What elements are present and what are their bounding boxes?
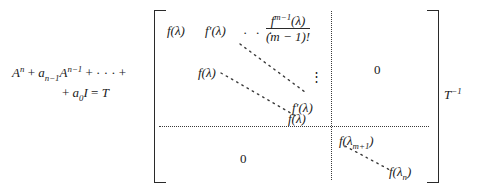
equation-figure: An + an−1An−1 + · · · + + a0I = T f(λ) f…: [0, 0, 488, 194]
dotted-diagonal-lower: [0, 0, 488, 194]
entry-T-inverse: T−1: [444, 88, 462, 101]
